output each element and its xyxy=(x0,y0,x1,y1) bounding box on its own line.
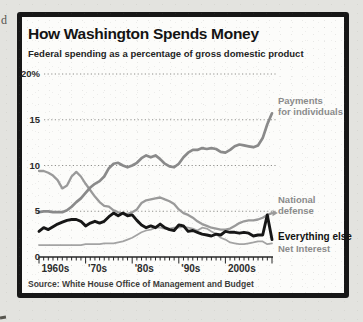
series-line-everything-else xyxy=(39,213,272,240)
series-label-line: for individuals xyxy=(278,107,343,118)
series-label-payments-for-individuals: Payments for individuals xyxy=(278,96,343,117)
series-label-national-defense: National defense xyxy=(278,195,315,216)
series-label-line: defense xyxy=(278,206,315,217)
y-tick-label-10: 10 xyxy=(12,160,40,171)
source-note: Source: White House Office of Management… xyxy=(28,279,254,289)
x-tick-label-2000: 2000s xyxy=(228,263,256,274)
y-tick-label-0: 0 xyxy=(12,251,40,262)
x-tick-label-1980: '80s xyxy=(135,263,154,274)
x-tick-label-1990: '90s xyxy=(181,263,200,274)
y-tick-label-15: 15 xyxy=(12,114,40,125)
page-background: d How Washington Spends Money Federal sp… xyxy=(0,0,363,322)
series-label-net-interest: Net Interest xyxy=(278,244,330,255)
series-label-line: National xyxy=(278,195,315,206)
x-tick-label-1960: 1960s xyxy=(42,263,70,274)
series-label-everything-else: Everything else xyxy=(278,232,352,243)
x-tick-label-1970: '70s xyxy=(88,263,107,274)
series-label-line: Payments xyxy=(278,96,343,107)
y-tick-label-20: 20% xyxy=(12,68,40,79)
series-line-net-interest xyxy=(39,227,272,245)
y-tick-label-5: 5 xyxy=(12,205,40,216)
